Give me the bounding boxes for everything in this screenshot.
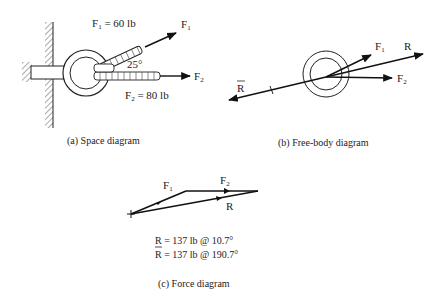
force-polygon: F1 F2 R R = 137 lb @ 10.7° R = 137 lb @ …	[127, 174, 258, 290]
angle-label: 25°	[127, 58, 142, 70]
f1-value-label: F1 = 60 lb	[92, 17, 136, 31]
rope-knot	[94, 64, 114, 72]
bolt-shank	[31, 66, 67, 79]
space-diagram: F1 = 60 lb F1 25° F2 F2 = 80 lb (a) Spac…	[22, 17, 204, 147]
r-label: R	[404, 40, 412, 52]
f2-label: F2	[397, 72, 407, 86]
vector-r	[326, 54, 423, 77]
vector-f2	[326, 77, 392, 78]
caption-b: (b) Free-body diagram	[278, 137, 369, 149]
r-label: R	[226, 200, 234, 212]
f1-label: F1	[375, 40, 385, 54]
free-body-diagram: F1 R F2 R (b) Free-body diagram	[229, 40, 423, 149]
caption-c: (c) Force diagram	[158, 278, 230, 290]
f2-value-label: F2 = 80 lb	[125, 89, 169, 103]
result-r: R = 137 lb @ 10.7°	[155, 235, 233, 246]
vector-r	[131, 191, 258, 214]
f2-arrow-label: F2	[194, 70, 204, 84]
f1-arrow-label: F1	[181, 18, 191, 32]
caption-a: (a) Space diagram	[67, 135, 140, 147]
f1-label: F1	[163, 179, 173, 193]
rope-f2	[94, 72, 160, 80]
arrow-f1	[145, 33, 176, 47]
force-diagrams: F1 = 60 lb F1 25° F2 F2 = 80 lb (a) Spac…	[0, 0, 444, 293]
result-r-bar: R = 137 lb @ 190.7°	[155, 249, 238, 260]
r-bar-label: R	[237, 82, 245, 94]
f2-label: F2	[220, 174, 230, 188]
